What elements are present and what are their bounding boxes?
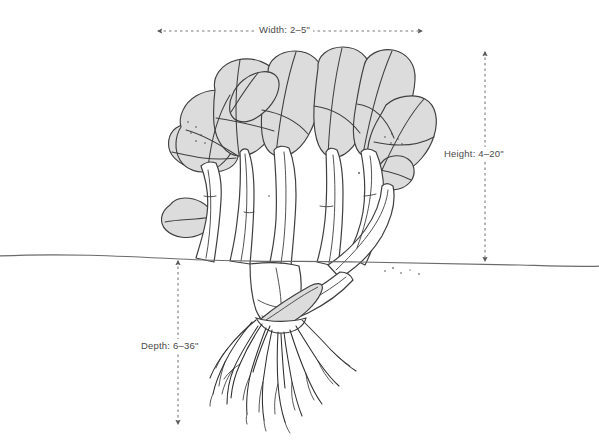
- soil-speckle-group: [384, 267, 420, 275]
- root-branch: [210, 394, 213, 406]
- stalk-center: [317, 148, 343, 267]
- soil-speckle: [409, 269, 411, 271]
- root-strand: [247, 328, 266, 414]
- width-dimension-label: Width: 2–5": [256, 23, 313, 36]
- leaf-speckle: [358, 172, 360, 174]
- root-strand: [231, 324, 262, 398]
- root-branch: [264, 420, 266, 431]
- height-dimension-label: Height: 4–20": [441, 147, 507, 160]
- depth-dimension-label: Depth: 6–36": [138, 339, 202, 352]
- soil-speckle: [418, 273, 420, 275]
- leaf-speckle: [195, 126, 197, 128]
- leaf-speckle: [397, 138, 399, 140]
- root-strand: [281, 334, 285, 388]
- root-strand: [253, 326, 270, 372]
- root-branch: [331, 350, 350, 366]
- leaf-speckle: [390, 142, 392, 144]
- leaf-speckle: [204, 142, 206, 144]
- root-strand: [302, 320, 356, 371]
- diagram-canvas: Width: 2–5" Height: 4–20" Depth: 6–36": [0, 0, 599, 448]
- leaf-speckle: [268, 195, 270, 197]
- stalk-left: [230, 149, 254, 264]
- leaf-speckle: [190, 132, 192, 134]
- soil-speckle: [400, 272, 402, 274]
- root-group: [210, 320, 356, 433]
- plant-diagram-illustration: [0, 0, 599, 448]
- soil-speckle: [384, 270, 386, 272]
- root-branch: [275, 384, 278, 414]
- root-branch: [246, 414, 247, 424]
- leaf-speckle: [401, 143, 403, 145]
- leaf-speckle: [200, 134, 202, 136]
- root-branch: [285, 422, 290, 433]
- leaf-speckle: [391, 133, 393, 135]
- soil-line: [0, 255, 599, 267]
- soil-speckle: [392, 267, 394, 269]
- root-strand: [213, 322, 252, 394]
- leaf-speckle: [187, 121, 189, 123]
- leaf-speckle: [384, 136, 386, 138]
- leaf-speckle: [195, 140, 197, 142]
- root-strand: [262, 330, 272, 420]
